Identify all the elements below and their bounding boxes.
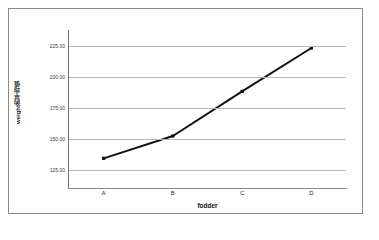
gridline (69, 77, 346, 78)
plot-area (69, 30, 346, 185)
y-tick-label: 225.00 (50, 43, 65, 49)
x-tick-label: C (240, 190, 244, 196)
gridline (69, 139, 346, 140)
gridline (69, 108, 346, 109)
x-tick-label: D (309, 190, 313, 196)
y-axis-tick-labels: 225.00200.00175.00150.00125.00 (22, 30, 65, 185)
x-axis-line (68, 188, 347, 189)
data-point-marker (241, 90, 244, 93)
data-point-marker (102, 157, 105, 160)
y-tick-label: 200.00 (50, 74, 65, 80)
x-tick-label: B (171, 190, 175, 196)
y-tick-label: 175.00 (50, 105, 65, 111)
y-tick-label: 125.00 (50, 167, 65, 173)
data-point-marker (310, 46, 313, 49)
gridline (69, 46, 346, 47)
series-line (104, 48, 312, 158)
data-point-marker (171, 134, 174, 137)
x-tick-label: A (102, 190, 106, 196)
x-axis-title: fodder (69, 202, 346, 209)
gridline (69, 170, 346, 171)
y-tick-label: 150.00 (50, 136, 65, 142)
x-axis-tick-labels: ABCD (69, 190, 346, 202)
